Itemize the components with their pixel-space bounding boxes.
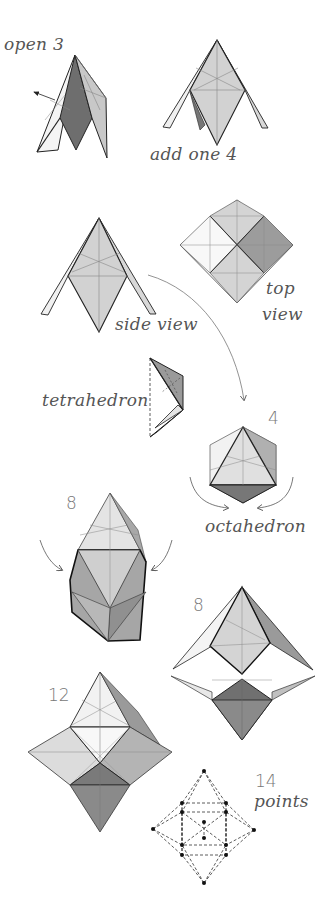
open-3-figure [34,55,107,158]
eight-first-figure [40,493,172,641]
label-octahedron: octahedron [205,518,306,535]
label-tetrahedron: tetrahedron [42,392,149,409]
fourteen-points-vertices [151,769,256,885]
label-view: view [262,306,303,323]
count-8-first: 8 [66,495,77,512]
fourteen-points-figure [153,771,254,883]
label-side-view: side view [115,316,198,333]
label-points: points [254,793,309,810]
label-top: top [266,280,295,297]
count-14: 14 [255,773,277,790]
count-8-second: 8 [193,597,204,614]
add-one-4-figure [163,40,268,145]
count-12: 12 [48,687,70,704]
diagram-canvas [0,0,330,916]
octahedron-figure [190,427,293,508]
label-add-one-4: add one 4 [150,146,237,163]
tetrahedron-figure [150,358,183,437]
count-4: 4 [268,410,279,427]
label-open-3: open 3 [4,36,64,53]
